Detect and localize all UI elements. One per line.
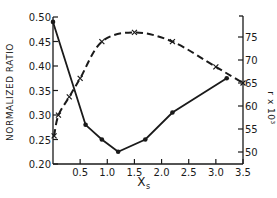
plot-area <box>51 20 246 154</box>
y-tick-label: 0.35 <box>29 86 51 97</box>
dot-marker <box>83 123 88 128</box>
dot-marker <box>51 20 56 25</box>
y2-tick-label: 60 <box>245 101 258 112</box>
dot-marker <box>224 76 229 81</box>
y-tick-label: 0.30 <box>29 110 51 121</box>
y-tick-label: 0.20 <box>29 159 51 170</box>
x-tick-label: 3.0 <box>208 167 224 178</box>
dot-marker <box>143 137 148 142</box>
y2-axis-label: r x 10³ <box>266 91 276 124</box>
y2-tick-label: 70 <box>245 55 258 66</box>
y-tick-label: 0.45 <box>29 37 51 48</box>
chart: 0.200.250.300.350.400.450.500.51.01.52.0… <box>0 0 277 198</box>
x-tick-label: 0.5 <box>72 167 88 178</box>
y2-tick-label: 75 <box>245 32 258 43</box>
solid-series-line <box>53 22 227 152</box>
y-tick-label: 0.25 <box>29 135 51 146</box>
x-marker <box>78 76 83 81</box>
x-marker <box>99 39 104 44</box>
x-tick-label: 1.0 <box>99 167 115 178</box>
x-tick-label: 2.5 <box>181 167 197 178</box>
dot-marker <box>116 149 121 154</box>
dashed-series-line <box>54 32 243 135</box>
y2-tick-label: 65 <box>245 78 258 89</box>
axes: 0.200.250.300.350.400.450.500.51.01.52.0… <box>29 12 258 178</box>
x-marker <box>67 94 72 99</box>
y-tick-label: 0.50 <box>29 12 51 23</box>
x-tick-label: 3.5 <box>235 167 251 178</box>
x-tick-label: 2.0 <box>154 167 170 178</box>
y2-tick-label: 55 <box>245 124 258 135</box>
y-tick-label: 0.40 <box>29 61 51 72</box>
x-axis-label: Xs <box>137 175 150 191</box>
y2-tick-label: 50 <box>245 147 258 158</box>
dot-marker <box>100 137 105 142</box>
dot-marker <box>170 110 175 115</box>
y-axis-label: NORMALIZED RATIO <box>5 43 15 141</box>
